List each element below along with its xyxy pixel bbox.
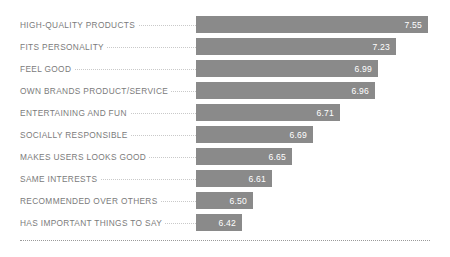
- bar-row: MAKES USERS LOOKS GOOD6.65: [0, 146, 450, 168]
- bar-value-label: 6.61: [248, 174, 272, 184]
- category-label: OWN BRANDS PRODUCT/SERVICE: [20, 80, 171, 102]
- bar-track: 6.65: [196, 148, 292, 165]
- bar-row: HAS IMPORTANT THINGS TO SAY6.42: [0, 212, 450, 234]
- bar: 6.65: [196, 148, 292, 165]
- bar-row: FEEL GOOD6.99: [0, 58, 450, 80]
- category-label: RECOMMENDED OVER OTHERS: [20, 190, 161, 212]
- bar-row: ENTERTAINING AND FUN6.71: [0, 102, 450, 124]
- bar: 6.99: [196, 60, 378, 77]
- bar-row: SAME INTERESTS6.61: [0, 168, 450, 190]
- bar-row: FITS PERSONALITY7.23: [0, 36, 450, 58]
- bar-track: 6.71: [196, 104, 340, 121]
- bar-track: 6.96: [196, 82, 375, 99]
- bar: 6.61: [196, 170, 272, 187]
- bar: 7.55: [196, 16, 428, 33]
- bar-value-label: 6.42: [218, 218, 242, 228]
- bar: 6.42: [196, 214, 242, 231]
- bar-track: 6.99: [196, 60, 378, 77]
- bar-value-label: 6.65: [268, 152, 292, 162]
- bar-value-label: 7.23: [372, 42, 396, 52]
- bar-row: RECOMMENDED OVER OTHERS6.50: [0, 190, 450, 212]
- category-label: SAME INTERESTS: [20, 168, 100, 190]
- bar-value-label: 6.50: [229, 196, 253, 206]
- bar-value-label: 6.69: [289, 130, 313, 140]
- bar-value-label: 7.55: [404, 20, 428, 30]
- category-label: MAKES USERS LOOKS GOOD: [20, 146, 149, 168]
- bar-track: 6.50: [196, 192, 253, 209]
- bar-value-label: 6.99: [354, 64, 378, 74]
- category-label: HIGH-QUALITY PRODUCTS: [20, 14, 138, 36]
- footer-divider: [20, 240, 430, 241]
- bar-row: OWN BRANDS PRODUCT/SERVICE6.96: [0, 80, 450, 102]
- bar-chart: HIGH-QUALITY PRODUCTS7.55FITS PERSONALIT…: [0, 0, 450, 257]
- bar: 6.50: [196, 192, 253, 209]
- category-label: SOCIALLY RESPONSIBLE: [20, 124, 131, 146]
- bar-chart-rows: HIGH-QUALITY PRODUCTS7.55FITS PERSONALIT…: [0, 14, 450, 234]
- bar-track: 7.23: [196, 38, 396, 55]
- bar: 6.96: [196, 82, 375, 99]
- bar: 6.69: [196, 126, 313, 143]
- category-label: FITS PERSONALITY: [20, 36, 107, 58]
- bar-track: 7.55: [196, 16, 428, 33]
- bar: 7.23: [196, 38, 396, 55]
- bar-value-label: 6.71: [316, 108, 340, 118]
- bar-track: 6.61: [196, 170, 272, 187]
- category-label: HAS IMPORTANT THINGS TO SAY: [20, 212, 165, 234]
- bar-value-label: 6.96: [351, 86, 375, 96]
- bar-row: SOCIALLY RESPONSIBLE6.69: [0, 124, 450, 146]
- bar-track: 6.42: [196, 214, 242, 231]
- bar: 6.71: [196, 104, 340, 121]
- bar-track: 6.69: [196, 126, 313, 143]
- bar-row: HIGH-QUALITY PRODUCTS7.55: [0, 14, 450, 36]
- category-label: ENTERTAINING AND FUN: [20, 102, 130, 124]
- category-label: FEEL GOOD: [20, 58, 74, 80]
